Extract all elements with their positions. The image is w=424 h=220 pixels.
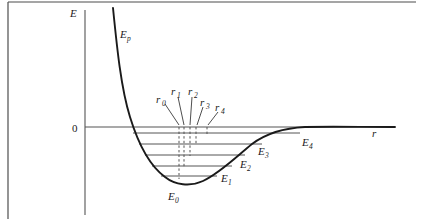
- radius-label-1-base: r: [171, 85, 176, 97]
- figure-root: E 0 r E p E 0 E 1 E 2 E 3 E 4 r: [0, 0, 424, 220]
- curve-label-ep-sub: p: [126, 34, 131, 43]
- energy-level-label-4-base: E: [301, 136, 309, 148]
- leader-line-r0: [165, 104, 179, 125]
- x-axis-label: r: [372, 127, 377, 139]
- energy-level-label-1-base: E: [220, 172, 228, 184]
- energy-level-label-2: E 2: [239, 158, 251, 173]
- radius-label-0: r 0: [156, 93, 166, 108]
- energy-level-label-2-base: E: [239, 158, 247, 170]
- radius-label-3-sub: 3: [205, 102, 210, 111]
- origin-label: 0: [72, 122, 78, 134]
- energy-level-label-0-sub: 0: [175, 196, 179, 205]
- leader-line-r4: [208, 112, 218, 125]
- energy-level-label-0-base: E: [167, 190, 175, 202]
- energy-level-label-3-base: E: [257, 145, 265, 157]
- leader-line-r1: [178, 97, 184, 125]
- radius-label-1: r 1: [171, 85, 181, 100]
- radius-label-4-base: r: [215, 101, 220, 113]
- leader-line-r2: [190, 97, 192, 125]
- energy-level-label-3: E 3: [257, 145, 269, 160]
- energy-level-label-3-sub: 3: [264, 151, 269, 160]
- energy-level-label-1-sub: 1: [228, 178, 232, 187]
- radius-label-2: r 2: [188, 85, 198, 100]
- turning-radius-dashed-lines: [179, 127, 207, 179]
- radius-label-2-base: r: [188, 85, 193, 97]
- radius-label-4-sub: 4: [221, 107, 225, 116]
- radius-label-3: r 3: [200, 96, 210, 111]
- radius-leader-lines: [165, 97, 218, 125]
- energy-level-label-4: E 4: [301, 136, 313, 151]
- curve-label-ep-base: E: [119, 28, 127, 40]
- radius-label-2-sub: 2: [194, 91, 198, 100]
- potential-energy-diagram: E 0 r E p E 0 E 1 E 2 E 3 E 4 r: [0, 0, 424, 220]
- energy-level-label-1: E 1: [220, 172, 232, 187]
- curve-label-ep: E p: [119, 28, 131, 43]
- page-frame: [8, 2, 416, 219]
- energy-level-label-4-sub: 4: [309, 142, 313, 151]
- energy-level-label-2-sub: 2: [247, 164, 251, 173]
- energy-level-lines: [133, 133, 300, 176]
- y-axis-label: E: [69, 7, 77, 19]
- radius-label-0-base: r: [156, 93, 161, 105]
- radius-label-0-sub: 0: [162, 99, 166, 108]
- energy-level-label-0: E 0: [167, 190, 179, 205]
- radius-label-1-sub: 1: [177, 91, 181, 100]
- radius-label-3-base: r: [200, 96, 205, 108]
- axes: [85, 10, 395, 215]
- leader-line-r3: [197, 107, 203, 125]
